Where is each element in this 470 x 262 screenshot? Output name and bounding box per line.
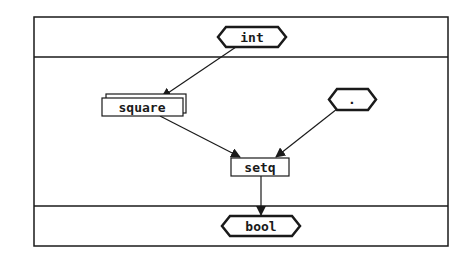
dataflow-diagram: int square . setq bool	[0, 0, 470, 262]
edge-dot-to-setq	[276, 109, 337, 157]
node-square[interactable]: square	[102, 94, 186, 116]
node-setq-label: setq	[244, 160, 275, 175]
node-dot[interactable]: .	[329, 89, 376, 110]
node-dot-label: .	[348, 92, 356, 107]
node-int[interactable]: int	[218, 27, 286, 47]
node-int-label: int	[240, 30, 263, 45]
node-square-label: square	[119, 100, 166, 115]
diagram-frame	[34, 17, 448, 246]
node-bool[interactable]: bool	[222, 216, 300, 236]
edge-square-to-setq	[160, 116, 240, 157]
node-bool-label: bool	[245, 219, 276, 234]
node-setq[interactable]: setq	[231, 158, 289, 176]
edge-int-to-square	[162, 47, 236, 97]
